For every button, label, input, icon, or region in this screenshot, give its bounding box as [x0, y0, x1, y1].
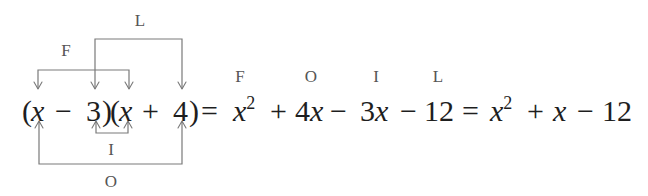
term-var: x [490, 94, 503, 127]
label-last: L [135, 12, 145, 29]
minus-sign: − [400, 96, 417, 126]
term-label-outer: O [305, 68, 317, 85]
equals-sign: = [201, 96, 218, 126]
paren-close: ) [189, 96, 199, 126]
factor1-minus: − [55, 96, 72, 126]
term-coef: 3 [360, 94, 375, 127]
term-label-last: L [433, 68, 443, 85]
term-exponent: 2 [503, 93, 512, 113]
term-inner: 3x [360, 96, 388, 126]
factor2-four: 4 [173, 96, 188, 126]
factor1-three: 3 [86, 96, 101, 126]
equals-sign: = [462, 96, 479, 126]
term-var: x [375, 94, 388, 127]
result-x-squared: x2 [490, 96, 512, 126]
factor2-plus: + [142, 96, 159, 126]
bracket-last [91, 39, 186, 89]
factor2-x: x [119, 96, 132, 126]
foil-diagram: L F I O ( x − 3 ) ( x + 4 ) = F x2 + O 4… [0, 0, 648, 196]
term-label-first: F [235, 68, 244, 85]
label-first: F [61, 42, 70, 59]
result-x: x [553, 96, 566, 126]
term-first: x2 [233, 96, 255, 126]
bracket-first [34, 70, 133, 89]
term-var: x [310, 94, 323, 127]
label-inner: I [108, 141, 114, 158]
minus-sign: − [330, 96, 347, 126]
term-outer: 4x [295, 96, 323, 126]
term-label-inner: I [373, 68, 379, 85]
term-last: 12 [424, 96, 454, 126]
result-constant: 12 [602, 96, 632, 126]
term-coef: 4 [295, 94, 310, 127]
minus-sign: − [577, 96, 594, 126]
term-exponent: 2 [246, 93, 255, 113]
plus-sign: + [270, 96, 287, 126]
term-var: x [233, 94, 246, 127]
plus-sign: + [527, 96, 544, 126]
factor1-x: x [31, 96, 44, 126]
label-outer: O [105, 173, 117, 190]
